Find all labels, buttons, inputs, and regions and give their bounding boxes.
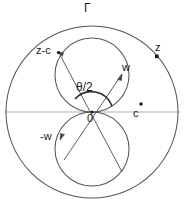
label-origin: 0 — [87, 113, 93, 124]
label-gamma: Γ — [84, 2, 91, 14]
diagram-svg — [0, 0, 184, 201]
label-z: z — [155, 42, 161, 53]
label-c: c — [133, 108, 139, 119]
arrowhead-negw — [60, 134, 65, 141]
point-marker-z — [155, 55, 159, 59]
label-z-minus-c: z-c — [36, 45, 51, 56]
label-w: w — [122, 62, 130, 73]
point-marker-zc — [57, 51, 60, 54]
figure-canvas: Γ z z-c w θ/2 0 c -w — [0, 0, 184, 201]
label-minus-w: -w — [40, 131, 52, 142]
label-theta-over-two: θ/2 — [76, 81, 93, 93]
point-marker-c — [139, 102, 142, 105]
arrowhead-w — [118, 74, 123, 81]
lemniscate-upper-lobe — [55, 38, 129, 112]
